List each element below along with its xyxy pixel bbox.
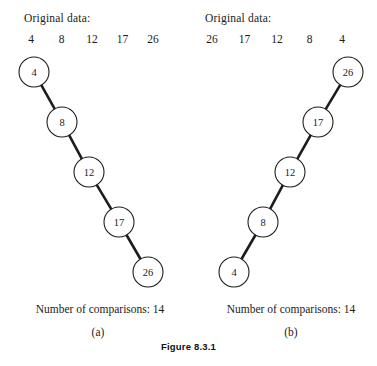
panel-a-data-value-1: 8: [55, 33, 69, 45]
tree-edge-12-to-8: [270, 185, 283, 209]
panel-a-data-value-4: 26: [146, 33, 160, 45]
panel-a-data-value-2: 12: [85, 33, 99, 45]
tree-node-26: 26: [333, 57, 363, 87]
panel-a-tree-diagram: 48121726: [0, 50, 188, 295]
panel-a-label: (a): [0, 326, 192, 338]
figure-caption: Figure 8.3.1: [0, 341, 377, 352]
panel-b-tree-diagram: 26171284: [189, 50, 377, 295]
panel-a-data-row: 4 8 12 17 26: [24, 33, 160, 45]
tree-node-17: 17: [303, 107, 333, 137]
tree-node-4: 4: [19, 57, 49, 87]
tree-node-26: 26: [133, 257, 163, 287]
panel-b-original-data-heading: Original data:: [189, 12, 377, 24]
tree-edge-12-to-17: [97, 185, 112, 209]
tree-node-label-26: 26: [343, 67, 354, 78]
panel-b-data-value-4: 4: [335, 33, 349, 45]
panel-a-comparisons-text: Number of comparisons: 14: [0, 303, 194, 315]
tree-node-12: 12: [74, 157, 104, 187]
tree-node-4: 4: [219, 257, 249, 287]
tree-node-label-8: 8: [260, 217, 265, 228]
tree-node-8: 8: [47, 107, 77, 137]
tree-edge-26-to-17: [326, 85, 341, 109]
panel-b: Original data: 26 17 12 8 4 26171284 Num…: [189, 0, 377, 366]
tree-node-label-4: 4: [231, 267, 237, 278]
panel-b-label: (b): [189, 326, 377, 338]
panel-b-data-value-0: 26: [205, 33, 219, 45]
figure-8-3-1: Original data: 4 8 12 17 26 48121726 Num…: [0, 0, 377, 366]
panel-a: Original data: 4 8 12 17 26 48121726 Num…: [0, 0, 188, 366]
panel-b-comparisons-text: Number of comparisons: 14: [189, 303, 377, 315]
tree-node-17: 17: [104, 207, 134, 237]
panel-b-data-value-3: 8: [303, 33, 317, 45]
panel-b-data-row: 26 17 12 8 4: [205, 33, 349, 45]
tree-node-label-4: 4: [31, 67, 37, 78]
tree-edge-17-to-12: [297, 135, 310, 159]
tree-node-label-12: 12: [84, 167, 95, 178]
tree-node-8: 8: [248, 207, 278, 237]
tree-node-label-17: 17: [313, 117, 324, 128]
tree-edge-8-to-12: [69, 135, 82, 159]
panel-b-data-value-1: 17: [238, 33, 252, 45]
tree-node-label-17: 17: [114, 217, 125, 228]
tree-edge-4-to-8: [41, 85, 54, 109]
tree-node-12: 12: [275, 157, 305, 187]
tree-edge-17-to-26: [127, 235, 141, 259]
panel-a-data-value-0: 4: [24, 33, 38, 45]
panel-a-data-value-3: 17: [116, 33, 130, 45]
tree-node-label-8: 8: [59, 117, 64, 128]
tree-node-label-26: 26: [143, 267, 154, 278]
tree-node-label-12: 12: [285, 167, 296, 178]
tree-edge-8-to-4: [242, 235, 256, 259]
panel-b-data-value-2: 12: [270, 33, 284, 45]
panel-a-original-data-heading: Original data:: [0, 12, 188, 24]
